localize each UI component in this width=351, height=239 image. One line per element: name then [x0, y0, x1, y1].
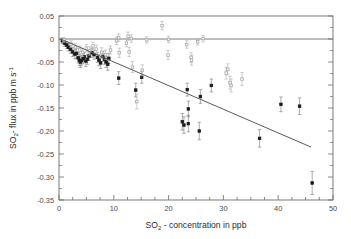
- data-point-open: [95, 48, 98, 51]
- data-point-filled: [98, 59, 101, 62]
- x-axis-tick-label: 50: [329, 204, 337, 213]
- data-point-filled: [86, 58, 89, 61]
- y-axis-title: SO2- flux in ppb m s-1: [7, 66, 19, 148]
- plot-frame: [59, 16, 333, 200]
- y-axis-tick-label: -0.05: [37, 58, 54, 67]
- data-point-filled: [134, 89, 137, 92]
- data-point-open: [117, 36, 120, 39]
- data-point-open: [229, 81, 232, 84]
- data-point-open: [241, 78, 244, 81]
- data-point-filled: [187, 108, 190, 111]
- data-point-open: [190, 59, 193, 62]
- data-point-open: [118, 52, 121, 55]
- data-point-open: [81, 51, 84, 54]
- data-point-open: [125, 42, 128, 45]
- data-point-filled: [117, 77, 120, 80]
- data-point-filled: [83, 56, 86, 59]
- y-axis-tick-label: -0.35: [37, 196, 54, 205]
- data-point-filled: [69, 48, 72, 51]
- data-point-filled: [198, 130, 201, 133]
- y-axis-tick-label: 0.05: [40, 12, 54, 21]
- data-point-open: [141, 69, 144, 72]
- data-point-open: [167, 54, 170, 57]
- data-point-filled: [140, 76, 143, 79]
- data-point-open: [79, 49, 82, 52]
- data-point-open: [92, 45, 95, 48]
- data-point-filled: [183, 124, 186, 127]
- data-point-open: [100, 51, 103, 54]
- y-axis-tick-label: -0.25: [37, 150, 54, 159]
- data-point-open: [190, 56, 193, 59]
- data-point-filled: [75, 52, 78, 55]
- data-point-open: [130, 37, 133, 40]
- scatter-plot-figure: 010203040500.050-0.05-0.10-0.15-0.20-0.2…: [0, 0, 351, 239]
- data-point-filled: [99, 62, 102, 65]
- data-point-open: [74, 46, 77, 49]
- x-axis-title: SO2 - concentration in ppb: [146, 220, 247, 231]
- data-point-open: [128, 51, 131, 54]
- chart-canvas: 010203040500.050-0.05-0.10-0.15-0.20-0.2…: [0, 0, 351, 239]
- data-point-filled: [96, 56, 99, 59]
- data-point-filled: [280, 103, 283, 106]
- data-point-open: [167, 38, 170, 41]
- data-point-open: [136, 100, 139, 103]
- data-point-open: [109, 49, 112, 52]
- data-point-open: [85, 47, 88, 50]
- x-axis-tick-label: 30: [219, 204, 227, 213]
- data-point-open: [196, 41, 199, 44]
- data-point-open: [104, 53, 107, 56]
- y-axis-tick-label: -0.20: [37, 127, 54, 136]
- data-point-open: [227, 68, 230, 71]
- data-point-filled: [258, 137, 261, 140]
- x-axis-tick-label: 10: [110, 204, 118, 213]
- y-axis-tick-label: -0.15: [37, 104, 54, 113]
- data-point-open: [145, 39, 148, 42]
- data-point-open: [161, 24, 164, 27]
- y-axis-tick-label: 0: [50, 35, 54, 44]
- data-point-open: [131, 66, 134, 69]
- data-point-open: [115, 40, 118, 43]
- data-point-open: [225, 72, 228, 75]
- data-point-filled: [187, 122, 190, 125]
- y-axis-tick-label: -0.30: [37, 173, 54, 182]
- data-point-open: [185, 43, 188, 46]
- data-point-open: [230, 84, 233, 87]
- data-point-filled: [107, 63, 110, 66]
- data-point-open: [127, 35, 130, 38]
- y-axis-tick-label: -0.10: [37, 81, 54, 90]
- data-point-filled: [186, 88, 189, 91]
- data-point-open: [202, 37, 205, 40]
- data-point-filled: [298, 105, 301, 108]
- linear-regression-fit: [61, 39, 311, 147]
- x-axis-tick-label: 0: [57, 204, 61, 213]
- data-point-filled: [311, 182, 314, 185]
- data-point-filled: [181, 121, 184, 124]
- data-point-filled: [199, 95, 202, 98]
- x-axis-tick-label: 40: [274, 204, 282, 213]
- x-axis-tick-label: 20: [164, 204, 172, 213]
- data-point-filled: [210, 84, 213, 87]
